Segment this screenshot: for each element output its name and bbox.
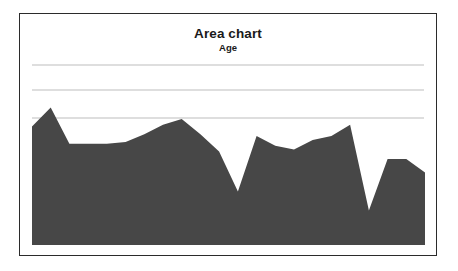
chart-card: Area chart Age [19, 13, 437, 256]
gridlines [32, 65, 424, 118]
area-series-age [32, 108, 425, 246]
title-block: Area chart Age [20, 26, 436, 54]
page-title: Area chart [20, 26, 436, 41]
chart-subtitle: Age [20, 42, 436, 54]
